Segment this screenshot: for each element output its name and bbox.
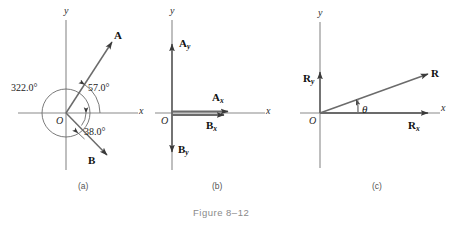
panel-b-graphics <box>155 20 265 170</box>
figure-vector-graphics <box>0 0 460 230</box>
panel-b-Ax-sub: x <box>220 96 224 105</box>
panel-c-vector-Ry-label: Ry <box>303 73 314 86</box>
panel-c-vector-R <box>320 74 428 113</box>
panel-c-graphics <box>300 22 440 168</box>
panel-c-angle-theta-label: θ <box>362 104 367 115</box>
panel-b-origin-label: O <box>161 116 168 126</box>
panel-b-Ax-base: A <box>212 91 220 103</box>
panel-b-vector-Ax-label: Ax <box>212 92 224 105</box>
panel-b-vector-Bx-label: Bx <box>206 120 217 133</box>
panel-a-vector-A <box>66 42 112 113</box>
panel-a-graphics <box>18 20 138 170</box>
panel-b-y-axis-label: y <box>170 6 174 16</box>
panel-a-angle-322-label: 322.0° <box>11 83 38 93</box>
panel-a-vector-B-label: B <box>88 155 95 166</box>
panel-c-Ry-base: R <box>303 72 311 84</box>
panel-b-Ay-base: A <box>179 37 187 49</box>
panel-c-vector-Rx-label: Rx <box>408 120 420 133</box>
panel-c-caption: (c) <box>372 182 382 191</box>
panel-a-angle-57-label: 57.0° <box>88 83 110 93</box>
panel-a-caption: (a) <box>78 182 88 191</box>
panel-b-vector-By-label: By <box>178 144 189 157</box>
panel-b-By-sub: y <box>185 148 188 157</box>
panel-c-Rx-sub: x <box>416 124 420 133</box>
panel-c-Ry-sub: y <box>311 77 314 86</box>
figure-caption: Figure 8–12 <box>193 208 249 218</box>
panel-a-origin-label: O <box>56 116 63 126</box>
panel-a-x-axis-label: x <box>139 106 143 116</box>
panel-c-Rx-base: R <box>408 119 416 131</box>
panel-b-caption: (b) <box>212 182 222 191</box>
panel-b-Bx-sub: x <box>213 124 217 133</box>
panel-b-x-axis-label: x <box>266 106 270 116</box>
panel-a-vector-A-label: A <box>114 30 122 41</box>
panel-c-x-axis-label: x <box>441 103 445 113</box>
panel-a-arc-38 <box>82 113 87 126</box>
panel-a-y-axis-label: y <box>64 6 68 16</box>
figure-8-12: y x O A B 57.0° 38.0° 322.0° (a) y x O A… <box>0 0 460 230</box>
panel-a-angle-38-label: 38.0° <box>84 127 106 137</box>
panel-b-vector-Ay-label: Ay <box>179 38 190 51</box>
panel-c-origin-label: O <box>309 116 316 126</box>
panel-c-y-axis-label: y <box>318 8 322 18</box>
panel-b-Ay-sub: y <box>187 42 190 51</box>
panel-c-vector-R-label: R <box>431 68 439 79</box>
